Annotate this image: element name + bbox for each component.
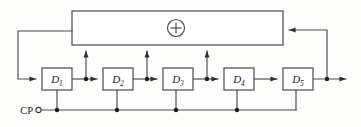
clock-label: CP (20, 105, 33, 116)
circuit-canvas: D1 D2 D3 D4 D5 CP (0, 0, 361, 127)
junction-clock-1 (55, 108, 59, 112)
junction-tap-2 (145, 77, 149, 81)
lfsr-diagram: D1 D2 D3 D4 D5 CP (0, 0, 361, 127)
junction-clock-3 (174, 108, 178, 112)
junction-output (325, 77, 329, 81)
junction-tap-1 (84, 77, 88, 81)
junction-clock-4 (235, 108, 239, 112)
clock-input-terminal[interactable] (36, 107, 41, 112)
junction-tap-3 (205, 77, 209, 81)
junction-clock-2 (115, 108, 119, 112)
